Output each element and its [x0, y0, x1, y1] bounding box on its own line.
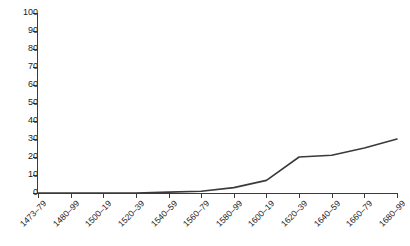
line-chart: 0102030405060708090100 1473–791480–99150… — [0, 0, 410, 246]
series-line — [38, 139, 397, 193]
series-line-layer — [0, 0, 410, 246]
